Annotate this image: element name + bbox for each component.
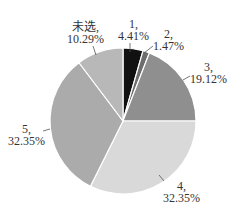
label-unselected-pct: 10.29% [67, 33, 104, 45]
label-2: 2, 1.47% [153, 28, 184, 52]
leader-line-3 [183, 76, 190, 80]
label-4-pct: 32.35% [163, 192, 200, 204]
label-1-pct: 4.41% [118, 30, 149, 42]
label-3: 3, 19.12% [190, 61, 227, 85]
label-2-pct: 1.47% [153, 40, 184, 52]
label-1: 1, 4.41% [118, 18, 149, 42]
label-5-pct: 32.35% [8, 135, 45, 147]
leader-line-2 [144, 46, 153, 53]
label-5: 5, 32.35% [8, 123, 45, 147]
label-unselected: 未选, 10.29% [67, 21, 104, 45]
label-4: 4, 32.35% [163, 180, 200, 204]
label-3-pct: 19.12% [190, 73, 227, 85]
pie-slices [50, 48, 196, 194]
